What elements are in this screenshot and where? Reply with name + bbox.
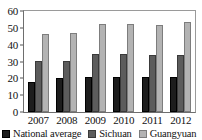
bar-group: [167, 11, 196, 112]
y-tick-label: 40: [7, 39, 18, 50]
legend-label: Guangyuan: [150, 128, 197, 139]
bar-chart: 0102030405060 200720082009201020112012 N…: [0, 0, 202, 140]
bar-group: [138, 11, 167, 112]
bar-guangyuan-2009: [99, 24, 106, 112]
legend-item-guangyuan: Guangyuan: [139, 128, 197, 139]
x-tick-label: 2008: [53, 114, 82, 127]
y-tick-label: 60: [7, 6, 18, 17]
y-tick-label: 0: [13, 107, 18, 118]
x-tick-label: 2010: [110, 114, 139, 127]
x-axis: 200720082009201020112012: [24, 114, 195, 127]
bar-guangyuan-2011: [156, 25, 163, 112]
bar-group: [110, 11, 139, 112]
bar-national-average-2009: [85, 77, 92, 112]
bar-guangyuan-2010: [127, 24, 134, 112]
y-axis: 0102030405060: [0, 4, 23, 119]
x-tick-label: 2009: [81, 114, 110, 127]
legend-swatch-icon: [88, 130, 96, 138]
y-tick-label: 20: [7, 73, 18, 84]
legend-item-national-average: National average: [2, 128, 81, 139]
bar-national-average-2008: [56, 78, 63, 112]
y-tick-label: 10: [7, 90, 18, 101]
bar-guangyuan-2007: [42, 34, 49, 112]
bar-group: [81, 11, 110, 112]
y-tick-label: 50: [7, 22, 18, 33]
bar-national-average-2012: [170, 77, 177, 112]
bar-national-average-2011: [142, 77, 149, 112]
bar-sichuan-2012: [177, 55, 184, 112]
legend-label: Sichuan: [99, 128, 131, 139]
legend-label: National average: [13, 128, 81, 139]
chart-legend: National averageSichuanGuangyuan: [2, 127, 202, 140]
bar-guangyuan-2012: [184, 22, 191, 112]
x-tick-label: 2012: [167, 114, 196, 127]
bar-sichuan-2011: [149, 55, 156, 112]
legend-item-sichuan: Sichuan: [88, 128, 131, 139]
bar-national-average-2007: [28, 82, 35, 112]
legend-swatch-icon: [139, 130, 147, 138]
y-tick-label: 30: [7, 56, 18, 67]
bar-group: [53, 11, 82, 112]
bar-sichuan-2007: [35, 61, 42, 112]
x-tick-label: 2011: [138, 114, 167, 127]
bars-layer: [24, 11, 195, 112]
bar-group: [24, 11, 53, 112]
bar-national-average-2010: [113, 77, 120, 112]
bar-guangyuan-2008: [70, 33, 77, 112]
bar-sichuan-2010: [120, 54, 127, 112]
x-tick-label: 2007: [24, 114, 53, 127]
bar-sichuan-2008: [63, 61, 70, 112]
bar-sichuan-2009: [92, 54, 99, 112]
legend-swatch-icon: [2, 130, 10, 138]
